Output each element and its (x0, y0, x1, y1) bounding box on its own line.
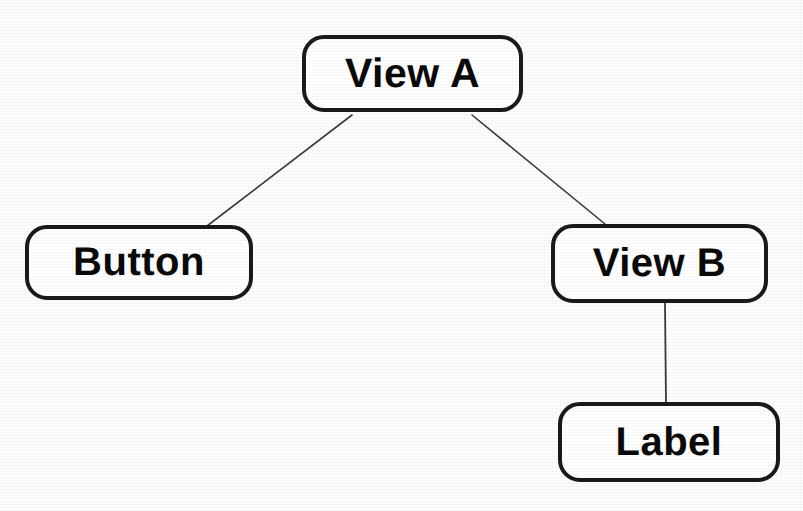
node-view-a[interactable]: View A (302, 35, 523, 112)
node-button-label: Button (73, 240, 205, 285)
diagram-canvas: View A Button View B Label (0, 0, 803, 511)
edge-view-a-view-b (472, 115, 605, 224)
node-view-a-label: View A (345, 50, 480, 97)
node-view-b-label: View B (593, 241, 726, 286)
edge-view-a-button (207, 115, 352, 226)
edge-view-b-label (665, 303, 666, 402)
node-button[interactable]: Button (25, 225, 253, 300)
node-view-b[interactable]: View B (551, 224, 768, 303)
node-label-label: Label (616, 420, 723, 465)
node-label[interactable]: Label (558, 402, 780, 482)
